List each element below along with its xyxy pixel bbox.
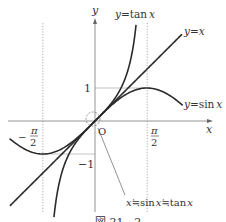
origin-label: O [98,126,106,137]
label-sin-curve: y=sinx [183,98,222,110]
figure-caption: 図 21 - 2 [95,216,141,222]
y-axis-arrow-icon [93,18,97,24]
approximation-annotation: x≒sinx≒tanx [126,197,193,208]
trig-approximation-diagram: y x O 1 −1 π 2 − π 2 y=tanx y=x y=sinx x… [0,0,226,222]
label-tan-curve: y=tanx [114,8,155,20]
y-axis-label: y [91,4,99,17]
x-axis-label: x [206,123,213,136]
x-tick-pi-half-denominator: 2 [151,137,157,148]
label-line-curve: y=x [183,25,205,37]
y-tick-neg-one: −1 [78,158,94,171]
annotation-leader-line [98,128,125,195]
x-tick-neg-sign: − [18,132,26,143]
x-tick-pi-half-numerator: π [150,125,158,136]
x-tick-neg-pi-half-numerator: π [30,125,38,136]
y-tick-one: 1 [84,82,91,95]
x-tick-neg-pi-half-denominator: 2 [30,137,36,148]
